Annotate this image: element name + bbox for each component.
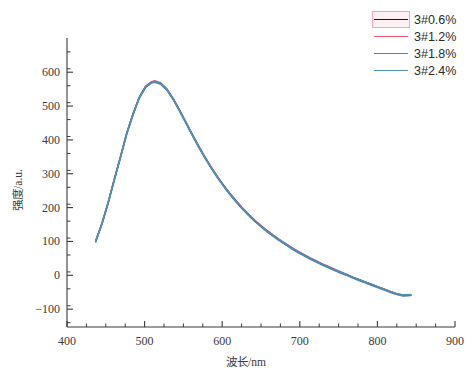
legend-swatch-0	[372, 11, 410, 28]
legend-swatch-3	[372, 62, 410, 79]
series-line-3	[96, 81, 411, 295]
svg-text:900: 900	[446, 334, 464, 348]
legend-line-3	[374, 70, 408, 71]
svg-text:200: 200	[42, 201, 60, 215]
svg-text:400: 400	[58, 334, 76, 348]
legend-item-1[interactable]: 3#1.2%	[372, 28, 456, 45]
svg-text:600: 600	[42, 65, 60, 79]
svg-text:0: 0	[54, 268, 60, 282]
legend-swatch-2	[372, 45, 410, 62]
spectrum-chart-figure: −1000100200300400500600 4005006007008009…	[0, 0, 469, 385]
y-axis-title: 强度/a.u.	[11, 169, 24, 211]
svg-text:−100: −100	[35, 302, 60, 316]
y-axis-ticks	[67, 52, 73, 323]
legend-line-0	[374, 19, 408, 20]
svg-text:800: 800	[368, 334, 386, 348]
svg-text:500: 500	[136, 334, 154, 348]
x-axis-ticks	[67, 321, 455, 327]
series-line-0	[96, 82, 411, 296]
legend-label-1: 3#1.2%	[414, 30, 456, 44]
series-line-2	[96, 82, 411, 296]
data-series-group	[96, 81, 411, 296]
svg-text:300: 300	[42, 167, 60, 181]
y-axis-tick-labels: −1000100200300400500600	[35, 65, 60, 316]
svg-text:700: 700	[291, 334, 309, 348]
legend-line-2	[374, 53, 408, 54]
svg-text:100: 100	[42, 234, 60, 248]
svg-text:400: 400	[42, 133, 60, 147]
x-axis-tick-labels: 400500600700800900	[58, 334, 464, 348]
legend-label-3: 3#2.4%	[414, 64, 456, 78]
legend: 3#0.6% 3#1.2% 3#1.8% 3#2.4%	[372, 11, 456, 79]
legend-label-0: 3#0.6%	[414, 13, 456, 27]
svg-text:600: 600	[213, 334, 231, 348]
legend-item-0[interactable]: 3#0.6%	[372, 11, 456, 28]
legend-item-3[interactable]: 3#2.4%	[372, 62, 456, 79]
svg-text:500: 500	[42, 99, 60, 113]
series-line-1	[96, 81, 411, 296]
legend-label-2: 3#1.8%	[414, 47, 456, 61]
legend-swatch-1	[372, 28, 410, 45]
legend-line-1	[374, 36, 408, 37]
x-axis-title: 波长/nm	[226, 356, 266, 368]
legend-item-2[interactable]: 3#1.8%	[372, 45, 456, 62]
